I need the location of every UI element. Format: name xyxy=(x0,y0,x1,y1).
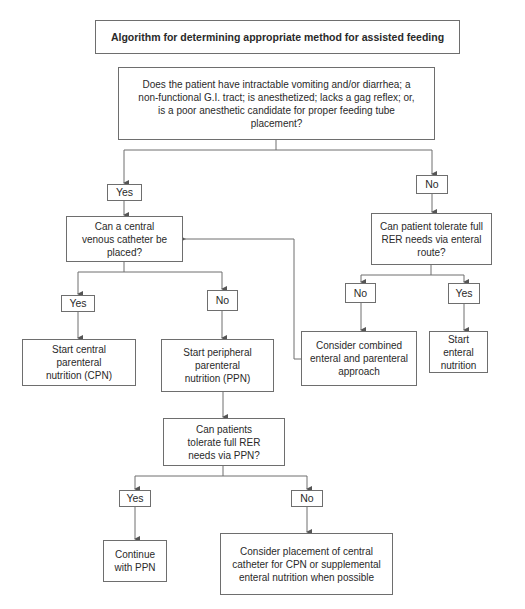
answer-no-start: No xyxy=(416,175,448,194)
question-start: Does the patient have intractable vomiti… xyxy=(118,67,435,140)
answer-no-enteral: No xyxy=(345,283,376,303)
question-ppn-tolerance: Can patients tolerate full RER needs via… xyxy=(163,418,285,466)
start-cpn: Start central parenteral nutrition (CPN) xyxy=(22,339,136,386)
answer-yes-start: Yes xyxy=(107,184,142,201)
start-ppn: Start peripheral parenteral nutrition (P… xyxy=(161,339,274,392)
answer-yes-ppn: Yes xyxy=(119,490,151,507)
answer-no-central: No xyxy=(207,290,238,311)
answer-yes-enteral: Yes xyxy=(448,283,480,304)
continue-ppn: Continue with PPN xyxy=(103,540,167,582)
start-enteral: Start enteral nutrition xyxy=(429,331,488,373)
consider-central-placement: Consider placement of central catheter f… xyxy=(220,533,393,595)
answer-yes-central: Yes xyxy=(61,295,95,312)
diagram-title: Algorithm for determining appropriate me… xyxy=(95,20,460,54)
answer-no-ppn: No xyxy=(291,490,323,507)
consider-combined: Consider combined enteral and parenteral… xyxy=(301,331,417,386)
question-enteral-tolerance: Can patient tolerate full RER needs via … xyxy=(371,213,492,265)
question-central-catheter: Can a central venous catheter be placed? xyxy=(66,216,183,262)
